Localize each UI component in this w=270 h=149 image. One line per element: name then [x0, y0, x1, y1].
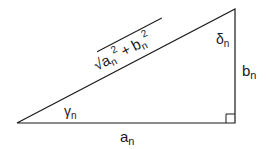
base-label: an: [120, 128, 134, 147]
angle-gamma-label: γn: [64, 103, 77, 121]
right-angle-marker: [226, 114, 235, 123]
right-triangle-diagram: an bn γn δn √an2+bn2: [0, 0, 270, 149]
triangle-outline: [17, 9, 235, 123]
angle-delta-label: δn: [216, 31, 229, 49]
height-label: bn: [242, 62, 256, 81]
hypotenuse-label: √an2+bn2: [89, 18, 172, 75]
radical-overline: [97, 18, 162, 52]
